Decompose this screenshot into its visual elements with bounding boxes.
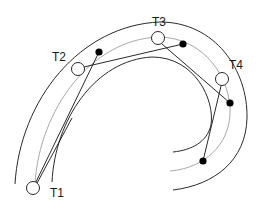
link-t1-inner: [36, 118, 72, 185]
link-t4-to-point4: [203, 86, 221, 161]
link-t1-to-point1: [35, 52, 99, 184]
label-t4: T4: [229, 58, 243, 72]
filled-point-3: [226, 99, 233, 106]
filled-point-2: [179, 40, 186, 47]
outer-arc: [15, 22, 247, 190]
target-t2: [72, 63, 85, 76]
label-t2: T2: [52, 50, 66, 64]
filled-point-4: [199, 157, 206, 164]
target-t3: [152, 32, 165, 45]
filled-point-1: [95, 48, 102, 55]
curved-track-diagram: T1 T2 T3 T4: [0, 0, 263, 210]
target-t4: [216, 73, 229, 86]
label-t3: T3: [152, 15, 166, 29]
label-t1: T1: [50, 186, 64, 200]
target-t1: [27, 182, 40, 195]
inner-arc: [52, 57, 212, 182]
